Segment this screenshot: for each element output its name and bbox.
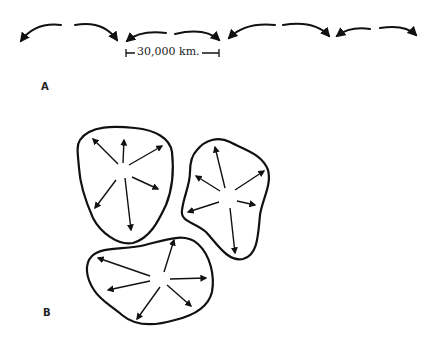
curved-arrow-right [175, 32, 219, 40]
curved-arrow-left [229, 25, 275, 38]
curved-arrow-left [21, 25, 61, 41]
diagram-canvas [0, 0, 432, 346]
curved-arrow-right [380, 27, 416, 35]
curved-arrow-right [75, 24, 117, 40]
panel-a-label: A [41, 81, 49, 92]
curved-arrow-right [283, 24, 329, 36]
scale-bar-label: 30,000 km. [135, 45, 202, 58]
panel-a-arrows [21, 24, 416, 41]
curved-arrow-left [127, 32, 166, 41]
curved-arrow-left [337, 28, 370, 36]
panel-b-cells [78, 127, 269, 324]
radiating-arrows [93, 139, 264, 319]
panel-b-label: B [43, 307, 51, 318]
